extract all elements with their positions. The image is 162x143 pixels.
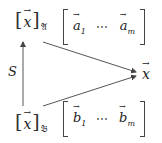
matrix-first-column: a1 <box>73 18 86 36</box>
vector-symbol: x <box>22 15 32 29</box>
right-bracket: ] <box>32 112 39 131</box>
top-coordinate-vector: [ x ] 𝔄 <box>15 10 47 29</box>
left-bracket: [ <box>15 112 22 131</box>
matrix-last-column: bm <box>119 110 135 128</box>
top-to-target-arrow <box>43 42 136 72</box>
left-bracket: [ <box>15 10 22 29</box>
arrow-label-s: S <box>8 64 17 79</box>
ellipsis: ⋯ <box>96 112 109 126</box>
target-vector: x <box>142 66 162 82</box>
basis-subscript: 𝔅 <box>41 125 48 134</box>
bottom-matrix: b1 ⋯ bm <box>63 101 145 137</box>
vector-symbol: x <box>22 117 32 131</box>
matrix-right-bracket <box>140 9 145 45</box>
matrix-right-bracket <box>140 101 145 137</box>
basis-subscript: 𝔄 <box>41 23 47 32</box>
bottom-coordinate-vector: [ x ] 𝔅 <box>15 112 48 131</box>
right-bracket: ] <box>32 10 39 29</box>
top-matrix: a1 ⋯ am <box>63 9 145 45</box>
matrix-first-column: b1 <box>73 110 86 128</box>
matrix-last-column: am <box>120 18 135 36</box>
ellipsis: ⋯ <box>96 20 109 34</box>
